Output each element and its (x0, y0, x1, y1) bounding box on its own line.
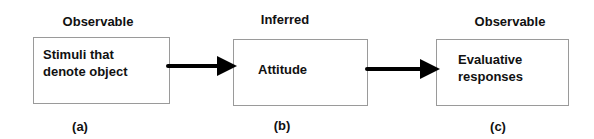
arrow-b-to-c (367, 59, 440, 79)
arrows-layer (0, 0, 594, 139)
arrow-a-to-b (168, 56, 237, 76)
